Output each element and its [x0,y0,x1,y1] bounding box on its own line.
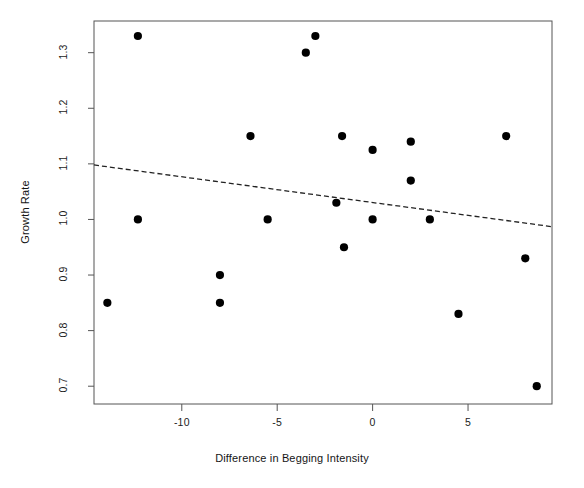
y-tick-label: 1.2 [57,90,69,124]
data-point [302,49,310,57]
fit-line [94,165,552,227]
x-tick-label: 0 [353,416,393,428]
x-tick-label: -5 [257,416,297,428]
data-point [332,199,340,207]
y-axis-title: Growth Rate [19,152,31,272]
data-point [502,132,510,140]
regression-line [94,165,552,227]
y-tick-label: 1.1 [57,146,69,180]
data-point [246,132,254,140]
plot-canvas [0,0,584,488]
x-tick-label: -10 [162,416,202,428]
data-point [103,299,111,307]
data-point [454,310,462,318]
data-point [134,215,142,223]
scatter-plot-figure: 0.70.80.91.01.11.21.3 -10-505 Difference… [0,0,584,488]
plot-frame [94,21,552,404]
x-axis-title: Difference in Begging Intensity [0,452,584,464]
y-tick-label: 1.3 [57,35,69,69]
data-point [216,271,224,279]
data-point [426,215,434,223]
data-point [533,382,541,390]
data-points [103,32,541,390]
data-point [216,299,224,307]
y-tick-label: 0.7 [57,368,69,402]
data-point [338,132,346,140]
data-point [311,32,319,40]
axis-ticks [88,53,468,411]
data-point [407,176,415,184]
data-point [134,32,142,40]
data-point [407,138,415,146]
data-point [264,215,272,223]
y-tick-label: 0.9 [57,257,69,291]
data-point [369,215,377,223]
data-point [369,146,377,154]
data-point [521,254,529,262]
y-tick-label: 1.0 [57,201,69,235]
y-tick-label: 0.8 [57,313,69,347]
plot-box [94,21,552,404]
data-point [340,243,348,251]
x-tick-label: 5 [448,416,488,428]
